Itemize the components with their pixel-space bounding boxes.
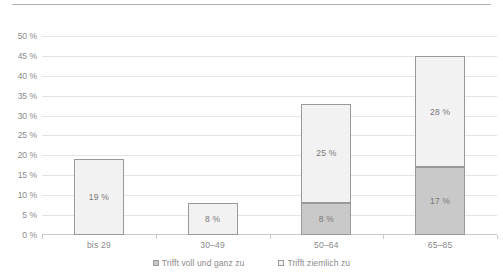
y-axis-tick-label: 40 % — [0, 71, 37, 81]
y-axis-tick-label: 45 % — [0, 51, 37, 61]
bar-value-label: 17 % — [430, 196, 450, 206]
x-axis-tick — [383, 235, 384, 239]
x-axis-tick — [497, 235, 498, 239]
y-axis-tick-label: 30 % — [0, 111, 37, 121]
chart-container: 0 %5 %10 %15 %20 %25 %30 %35 %40 %45 %50… — [0, 0, 503, 280]
x-axis-tick — [270, 235, 271, 239]
bar-segment[interactable]: 28 % — [415, 56, 465, 167]
bar-value-label: 25 % — [316, 148, 336, 158]
y-axis-tick-label: 15 % — [0, 170, 37, 180]
plot-area: 0 %19 %0 %8 %8 %25 %17 %28 % — [42, 28, 497, 235]
x-axis-category-label: 30–49 — [158, 240, 268, 250]
legend-swatch-icon — [153, 260, 159, 266]
chart-legend: Trifft voll und ganz zuTrifft ziemlich z… — [0, 258, 503, 268]
legend-label: Trifft ziemlich zu — [287, 258, 350, 268]
bar-value-label: 19 % — [89, 192, 109, 202]
y-axis-tick-label: 10 % — [0, 190, 37, 200]
gridline — [42, 36, 497, 37]
legend-swatch-icon — [278, 260, 284, 266]
bar-segment[interactable]: 8 % — [188, 203, 238, 235]
legend-item[interactable]: Trifft voll und ganz zu — [153, 258, 245, 268]
bar-value-label: 28 % — [430, 107, 450, 117]
y-axis-tick-label: 25 % — [0, 130, 37, 140]
bar-segment[interactable]: 8 % — [301, 203, 351, 235]
y-axis-tick-label: 0 % — [0, 230, 37, 240]
x-axis-category-label: bis 29 — [44, 240, 154, 250]
x-axis-tick — [156, 235, 157, 239]
bar-segment[interactable]: 17 % — [415, 167, 465, 235]
x-axis-category-label: 65–85 — [385, 240, 495, 250]
x-axis-category-label: 50–64 — [271, 240, 381, 250]
bar-value-label: 8 % — [319, 214, 334, 224]
y-axis-labels: 0 %5 %10 %15 %20 %25 %30 %35 %40 %45 %50… — [0, 28, 37, 235]
bar-segment[interactable]: 25 % — [301, 104, 351, 204]
bar-value-label: 8 % — [205, 214, 220, 224]
bar-segment[interactable]: 19 % — [74, 159, 124, 235]
top-divider-rule — [12, 4, 491, 5]
y-axis-tick-label: 5 % — [0, 210, 37, 220]
legend-label: Trifft voll und ganz zu — [162, 258, 245, 268]
y-axis-tick-label: 20 % — [0, 150, 37, 160]
x-axis-tick — [42, 235, 43, 239]
legend-item[interactable]: Trifft ziemlich zu — [278, 258, 350, 268]
y-axis-tick-label: 50 % — [0, 31, 37, 41]
y-axis-tick-label: 35 % — [0, 91, 37, 101]
